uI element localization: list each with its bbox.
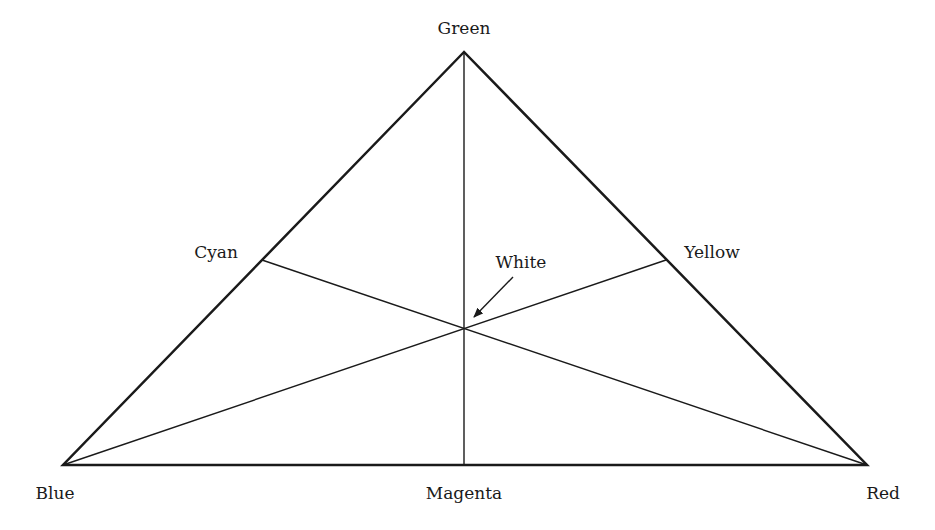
median-red-cyan [262,260,867,465]
label-cyan: Cyan [194,242,238,262]
label-red: Red [866,483,900,503]
label-magenta: Magenta [426,483,502,503]
label-yellow: Yellow [683,242,740,262]
label-white: White [496,252,547,272]
label-green: Green [438,18,491,38]
color-triangle-diagram: Green Cyan Yellow White Blue Magenta Red [0,0,935,530]
outer-triangle [63,52,867,465]
median-blue-yellow [63,260,666,465]
label-blue: Blue [36,483,75,503]
white-pointer-arrow [474,277,513,317]
